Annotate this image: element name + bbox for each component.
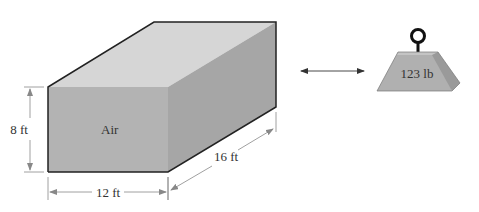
box-label: Air (101, 122, 119, 137)
weight-ring-icon (412, 30, 425, 43)
air-box (48, 22, 276, 172)
width-label: 12 ft (96, 185, 121, 200)
height-label: 8 ft (10, 122, 28, 137)
diagram-canvas: Air 8 ft 12 ft 16 ft 123 lb (0, 0, 479, 212)
depth-label: 16 ft (214, 149, 239, 164)
weight-label: 123 lb (401, 66, 434, 81)
weight-object (377, 30, 460, 92)
weight-stem (417, 42, 420, 53)
weight-top-edge (397, 52, 438, 55)
